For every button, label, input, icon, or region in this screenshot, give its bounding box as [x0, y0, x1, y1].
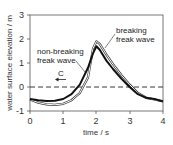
y-tick-label: 1: [19, 58, 24, 68]
annotation-non-breaking-line2: freak wave: [37, 56, 76, 65]
x-tick-label: 2: [93, 116, 98, 126]
chart: 3 2 1 0 -1 0 1 2 3 4 time / s water surf…: [0, 0, 173, 145]
x-tick-label: 0: [27, 116, 32, 126]
x-tick-label: 3: [127, 116, 132, 126]
y-tick-label: 2: [19, 34, 24, 44]
y-axis: [27, 15, 30, 111]
annotation-breaking-line1: breaking: [116, 26, 147, 35]
annotation-leader-breaking: [105, 34, 115, 48]
annotation-leader-non-breaking: [76, 61, 85, 72]
x-axis: [30, 111, 163, 114]
y-axis-label: water surface elevation / m: [5, 15, 14, 112]
x-tick-label: 4: [160, 116, 165, 126]
annotation-non-breaking-line1: non-breaking: [37, 47, 84, 56]
arrow-left-icon: [55, 78, 66, 82]
x-axis-label: time / s: [83, 128, 109, 137]
annotation-celerity: C: [58, 69, 64, 78]
y-tick-label: 3: [19, 10, 24, 20]
y-tick-label: 0: [19, 82, 24, 92]
annotation-breaking-line2: freak wave: [116, 35, 155, 44]
x-tick-label: 1: [60, 116, 65, 126]
y-tick-label: -1: [16, 106, 24, 116]
